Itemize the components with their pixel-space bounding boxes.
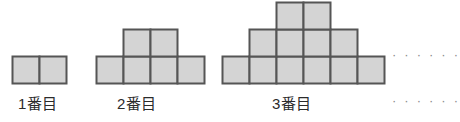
figure-3: [223, 3, 385, 84]
square-cell: [178, 57, 205, 84]
ellipsis-figures-icon: · · · · · ·: [392, 47, 460, 62]
figure-3-label: 3番目: [272, 92, 312, 113]
square-cell: [277, 30, 304, 57]
square-cell: [151, 57, 178, 84]
square-cell: [250, 57, 277, 84]
square-cell: [124, 57, 151, 84]
ellipsis-labels-icon: · · · · · ·: [392, 93, 460, 108]
figure-2: [97, 30, 205, 84]
figure-1: [13, 57, 67, 84]
square-cell: [331, 30, 358, 57]
square-cell: [40, 57, 67, 84]
square-cell: [304, 30, 331, 57]
square-cell: [250, 30, 277, 57]
square-cell: [304, 57, 331, 84]
square-cell: [304, 3, 331, 30]
square-cell: [277, 3, 304, 30]
figure-1-label: 1番目: [18, 92, 58, 113]
square-cell: [277, 57, 304, 84]
square-cell: [13, 57, 40, 84]
square-cell: [331, 57, 358, 84]
figure-2-label: 2番目: [117, 92, 157, 113]
square-cell: [223, 57, 250, 84]
square-cell: [97, 57, 124, 84]
square-cell: [151, 30, 178, 57]
square-cell: [358, 57, 385, 84]
square-cell: [124, 30, 151, 57]
